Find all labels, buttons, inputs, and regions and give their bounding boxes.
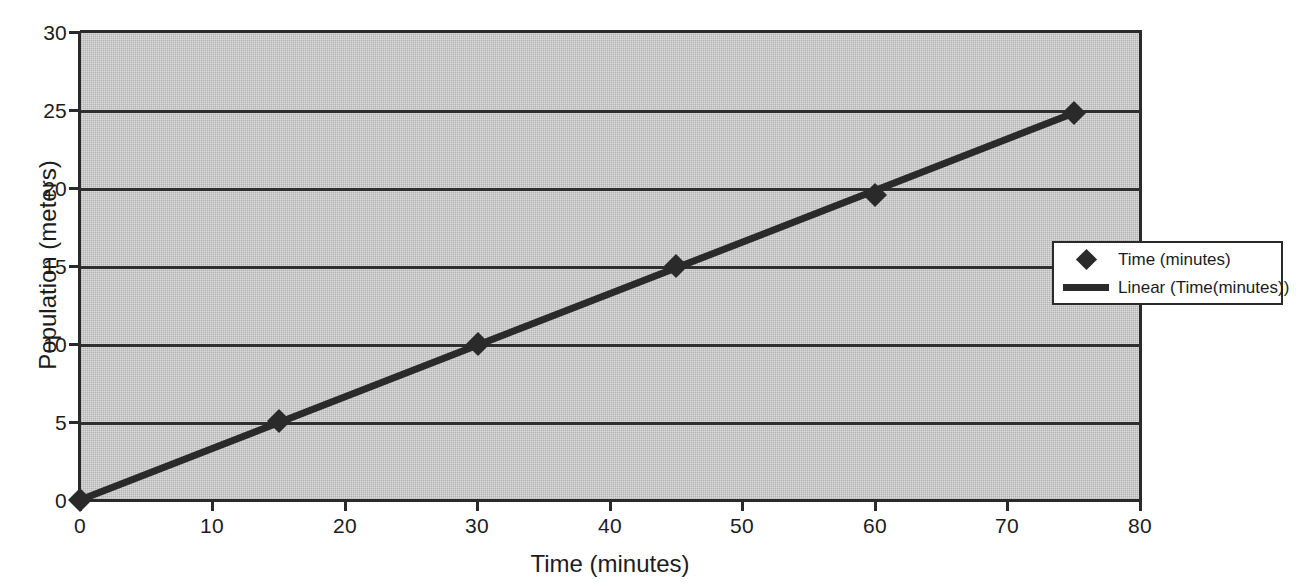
- x-tick-label-80: 80: [1110, 515, 1170, 536]
- y-tick-25: [69, 109, 80, 112]
- legend-item-series[interactable]: Time (minutes): [1054, 246, 1285, 273]
- y-tick-label-30: 30: [21, 22, 67, 43]
- gridline-y-20: [80, 188, 1140, 191]
- y-tick-15: [69, 265, 80, 268]
- x-tick-30: [476, 500, 479, 511]
- x-axis-title: Time (minutes): [430, 551, 790, 577]
- chart-legend[interactable]: Time (minutes) Linear (Time(minutes)): [1052, 241, 1283, 305]
- x-tick-label-0: 0: [50, 515, 110, 536]
- y-tick-20: [69, 187, 80, 190]
- y-tick-5: [69, 421, 80, 424]
- legend-label-trendline: Linear (Time(minutes)): [1118, 278, 1289, 297]
- x-tick-label-60: 60: [845, 515, 905, 536]
- x-tick-80: [1139, 500, 1142, 511]
- x-tick-70: [1006, 500, 1009, 511]
- gridline-y-5: [80, 422, 1140, 425]
- x-tick-20: [344, 500, 347, 511]
- x-tick-label-50: 50: [712, 515, 772, 536]
- x-tick-label-30: 30: [447, 515, 507, 536]
- gridline-y-10: [80, 344, 1140, 347]
- x-tick-0: [79, 500, 82, 511]
- plot-border-top: [80, 30, 1142, 33]
- x-tick-label-70: 70: [977, 515, 1037, 536]
- x-tick-50: [741, 500, 744, 511]
- gridline-y-25: [80, 110, 1140, 113]
- y-tick-label-0: 0: [21, 490, 67, 511]
- legend-label-series: Time (minutes): [1118, 250, 1231, 269]
- x-tick-60: [874, 500, 877, 511]
- chart-figure: 30 25 20 15 10 5 0 0 10 20 30 40 50 60 7…: [0, 0, 1299, 586]
- x-tick-10: [211, 500, 214, 511]
- gridline-y-15: [80, 266, 1140, 269]
- x-tick-label-20: 20: [315, 515, 375, 536]
- x-tick-label-10: 10: [182, 515, 242, 536]
- y-tick-10: [69, 343, 80, 346]
- x-tick-40: [609, 500, 612, 511]
- legend-item-trendline[interactable]: Linear (Time(minutes)): [1054, 274, 1285, 301]
- y-axis-title: Population (meters): [35, 85, 61, 445]
- x-tick-label-40: 40: [580, 515, 640, 536]
- y-tick-30: [69, 31, 80, 34]
- diamond-marker-icon: [1054, 252, 1118, 267]
- line-swatch-icon: [1054, 284, 1118, 291]
